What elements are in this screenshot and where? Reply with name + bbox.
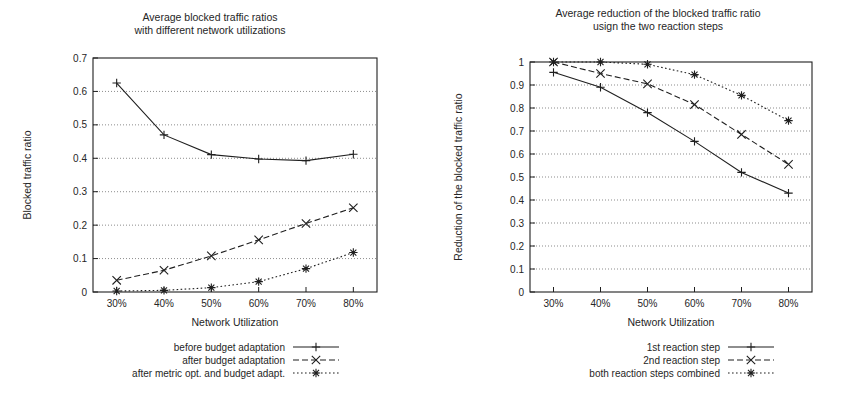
data-point-marker (747, 343, 755, 351)
data-point-marker (160, 266, 168, 274)
legend: before budget adaptationafter budget ada… (132, 342, 339, 379)
data-point-marker (784, 116, 792, 124)
y-tick-label: 0.5 (73, 119, 87, 130)
data-point-marker (207, 150, 215, 158)
legend-label: 2nd reaction step (643, 355, 720, 366)
data-point-marker (254, 236, 262, 244)
x-axis-ticks: 30%40%50%60%70%80% (543, 287, 798, 309)
data-point-marker (643, 80, 651, 88)
y-tick-label: 0.7 (73, 53, 87, 64)
y-axis-ticks: 00.10.20.30.40.50.60.70.80.91 (510, 57, 535, 298)
y-tick-label: 0 (518, 287, 524, 298)
y-tick-label: 0 (81, 287, 87, 298)
data-point-marker (160, 286, 168, 294)
x-tick-label: 80% (343, 298, 363, 309)
data-point-marker (549, 58, 557, 66)
data-point-marker (643, 108, 651, 116)
x-tick-label: 80% (778, 298, 798, 309)
legend: 1st reaction step2nd reaction stepboth r… (589, 342, 774, 379)
y-tick-label: 0.9 (510, 80, 524, 91)
data-point-marker (690, 70, 698, 78)
figure-container: Average blocked traffic ratioswith diffe… (0, 0, 841, 407)
y-tick-label: 0.1 (510, 264, 524, 275)
data-point-marker (349, 204, 357, 212)
chart-title: Average reduction of the blocked traffic… (555, 7, 760, 19)
series-3 (549, 58, 792, 125)
y-tick-label: 0.6 (73, 86, 87, 97)
data-point-marker (302, 264, 310, 272)
x-tick-label: 30% (107, 298, 127, 309)
series-1 (549, 68, 792, 197)
reduction-of-blocked-traffic-ratio-chart: Average reduction of the blocked traffic… (420, 0, 841, 407)
data-point-marker (747, 369, 755, 377)
data-point-marker (254, 155, 262, 163)
chart-subtitle: with different network utilizations (134, 24, 286, 36)
data-point-marker (737, 168, 745, 176)
data-point-marker (302, 156, 310, 164)
x-tick-label: 70% (731, 298, 751, 309)
x-tick-label: 70% (296, 298, 316, 309)
chart-title: Average blocked traffic ratios (142, 11, 277, 23)
plot-frame (93, 58, 377, 292)
blocked-traffic-ratio-chart: Average blocked traffic ratioswith diffe… (0, 0, 420, 407)
x-tick-label: 50% (637, 298, 657, 309)
series-line (117, 208, 354, 281)
y-tick-label: 0.3 (73, 186, 87, 197)
data-point-marker (349, 248, 357, 256)
data-point-marker (784, 160, 792, 168)
series-3 (112, 248, 357, 295)
data-point-marker (349, 150, 357, 158)
y-tick-label: 0.8 (510, 103, 524, 114)
x-tick-label: 40% (154, 298, 174, 309)
chart-panel-right: Average reduction of the blocked traffic… (420, 0, 841, 407)
data-point-marker (690, 100, 698, 108)
data-point-marker (112, 276, 120, 284)
grid-lines (530, 85, 812, 269)
x-tick-label: 40% (590, 298, 610, 309)
legend-label: after budget adaptation (182, 355, 285, 366)
series-2 (549, 58, 792, 169)
data-point-marker (596, 83, 604, 91)
legend-label: after metric opt. and budget adapt. (132, 368, 285, 379)
y-tick-label: 0.2 (510, 241, 524, 252)
data-point-marker (312, 343, 320, 351)
data-point-marker (254, 277, 262, 285)
legend-label: 1st reaction step (647, 342, 721, 353)
series-line (554, 62, 789, 164)
grid-lines (93, 91, 377, 258)
series-line (117, 83, 354, 161)
data-point-marker (643, 60, 651, 68)
y-tick-label: 0.5 (510, 172, 524, 183)
data-point-marker (737, 91, 745, 99)
y-axis-label: Blocked traffic ratio (21, 130, 33, 219)
y-axis-label: Reduction of the blocked traffic ratio (452, 93, 464, 260)
data-point-marker (302, 219, 310, 227)
y-axis-ticks: 00.10.20.30.40.50.60.7 (73, 53, 98, 298)
x-tick-label: 60% (249, 298, 269, 309)
x-axis-label: Network Utilization (192, 316, 279, 328)
y-tick-label: 0.6 (510, 149, 524, 160)
x-tick-label: 60% (684, 298, 704, 309)
data-point-marker (690, 137, 698, 145)
legend-label: both reaction steps combined (589, 368, 720, 379)
y-tick-label: 0.1 (73, 253, 87, 264)
x-axis-label: Network Utilization (628, 316, 715, 328)
data-point-marker (596, 69, 604, 77)
x-tick-label: 50% (201, 298, 221, 309)
y-tick-label: 0.3 (510, 218, 524, 229)
y-tick-label: 0.4 (510, 195, 524, 206)
chart-subtitle: usign the two reaction steps (593, 20, 723, 32)
series-line (554, 72, 789, 193)
data-point-marker (207, 283, 215, 291)
y-tick-label: 0.4 (73, 153, 87, 164)
data-point-marker (112, 287, 120, 295)
x-tick-label: 30% (543, 298, 563, 309)
data-point-marker (207, 252, 215, 260)
chart-panel-left: Average blocked traffic ratioswith diffe… (0, 0, 420, 407)
y-tick-label: 1 (518, 57, 524, 68)
data-point-marker (549, 68, 557, 76)
data-point-marker (312, 369, 320, 377)
data-point-marker (737, 130, 745, 138)
y-tick-label: 0.7 (510, 126, 524, 137)
data-point-marker (596, 58, 604, 66)
